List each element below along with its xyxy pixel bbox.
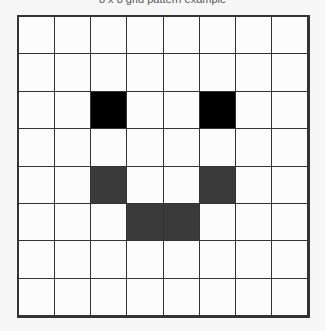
grid-cell[interactable] xyxy=(236,92,272,129)
grid-cell[interactable] xyxy=(19,204,55,241)
grid-cell[interactable] xyxy=(91,204,127,241)
grid-cell[interactable] xyxy=(164,241,200,278)
grid-cell[interactable] xyxy=(127,204,163,241)
grid-cell[interactable] xyxy=(164,167,200,204)
grid-cell[interactable] xyxy=(236,279,272,316)
grid-cell[interactable] xyxy=(91,241,127,278)
grid-cell[interactable] xyxy=(200,241,236,278)
grid-cell[interactable] xyxy=(127,54,163,91)
grid-cell[interactable] xyxy=(272,167,308,204)
grid-cell[interactable] xyxy=(272,241,308,278)
grid-cell[interactable] xyxy=(236,241,272,278)
grid-cell[interactable] xyxy=(19,92,55,129)
grid-cell[interactable] xyxy=(91,167,127,204)
grid-cell[interactable] xyxy=(164,129,200,166)
grid-cell[interactable] xyxy=(55,241,91,278)
grid-cell[interactable] xyxy=(19,54,55,91)
grid-cell[interactable] xyxy=(272,92,308,129)
grid-cell[interactable] xyxy=(91,279,127,316)
grid-cell[interactable] xyxy=(164,92,200,129)
grid-cell[interactable] xyxy=(164,54,200,91)
grid-cell[interactable] xyxy=(55,17,91,54)
grid-cell[interactable] xyxy=(236,204,272,241)
grid-cell[interactable] xyxy=(272,204,308,241)
grid-cell[interactable] xyxy=(200,92,236,129)
grid-cell[interactable] xyxy=(19,167,55,204)
grid-cell[interactable] xyxy=(164,279,200,316)
grid-cell[interactable] xyxy=(272,17,308,54)
grid-cell[interactable] xyxy=(200,17,236,54)
grid-cell[interactable] xyxy=(200,204,236,241)
grid-cell[interactable] xyxy=(236,17,272,54)
grid-cell[interactable] xyxy=(127,241,163,278)
grid-container xyxy=(17,15,310,318)
grid-cell[interactable] xyxy=(55,204,91,241)
grid-cell[interactable] xyxy=(164,17,200,54)
grid-cell[interactable] xyxy=(127,129,163,166)
grid-cell[interactable] xyxy=(91,129,127,166)
pattern-grid[interactable] xyxy=(17,15,310,318)
grid-cell[interactable] xyxy=(127,92,163,129)
grid-cell[interactable] xyxy=(200,167,236,204)
grid-cell[interactable] xyxy=(55,54,91,91)
grid-cell[interactable] xyxy=(272,279,308,316)
grid-cell[interactable] xyxy=(19,129,55,166)
grid-cell[interactable] xyxy=(55,129,91,166)
grid-cell[interactable] xyxy=(200,279,236,316)
grid-cell[interactable] xyxy=(19,279,55,316)
grid-cell[interactable] xyxy=(272,54,308,91)
grid-cell[interactable] xyxy=(127,279,163,316)
grid-cell[interactable] xyxy=(91,17,127,54)
grid-cell[interactable] xyxy=(19,241,55,278)
grid-cell[interactable] xyxy=(200,129,236,166)
grid-cell[interactable] xyxy=(19,17,55,54)
grid-cell[interactable] xyxy=(55,279,91,316)
grid-cell[interactable] xyxy=(91,92,127,129)
grid-cell[interactable] xyxy=(236,129,272,166)
caption-text: 8 x 8 grid pattern example xyxy=(0,0,325,6)
grid-cell[interactable] xyxy=(55,167,91,204)
grid-cell[interactable] xyxy=(55,92,91,129)
caption-clip-region: 8 x 8 grid pattern example xyxy=(0,0,325,7)
grid-cell[interactable] xyxy=(236,167,272,204)
grid-cell[interactable] xyxy=(164,204,200,241)
grid-cell[interactable] xyxy=(127,167,163,204)
grid-cell[interactable] xyxy=(91,54,127,91)
grid-cell[interactable] xyxy=(236,54,272,91)
grid-cell[interactable] xyxy=(200,54,236,91)
grid-cell[interactable] xyxy=(127,17,163,54)
grid-cell[interactable] xyxy=(272,129,308,166)
